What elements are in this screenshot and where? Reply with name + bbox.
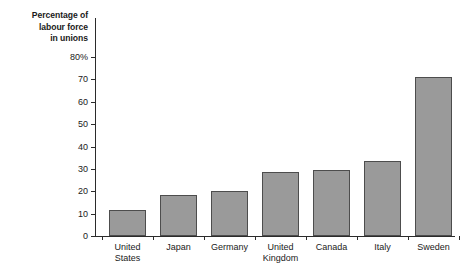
x-axis-label: Sweden (405, 242, 462, 253)
x-axis-tick (204, 236, 205, 240)
y-axis-tick-label: 80% (70, 53, 88, 62)
chart-title-line-1: Percentage of (14, 10, 88, 22)
x-axis-label: Germany (201, 242, 258, 253)
bar-chart: Percentage of labour force in unions 010… (0, 0, 471, 269)
y-axis-tick (91, 169, 95, 170)
y-axis-tick-label: 10 (78, 209, 88, 218)
bar (313, 170, 350, 236)
y-axis-tick (91, 79, 95, 80)
chart-title-line-3: in unions (14, 33, 88, 45)
chart-title-line-2: labour force (14, 22, 88, 34)
x-axis-label: Canada (303, 242, 360, 253)
x-axis-label-line: Canada (303, 242, 360, 253)
x-axis-tick (102, 236, 103, 240)
x-axis-label-line: States (99, 253, 156, 264)
bar (415, 77, 452, 236)
x-axis-tick (408, 236, 409, 240)
x-axis-label: UnitedKingdom (252, 242, 309, 263)
bar (364, 161, 401, 236)
x-axis-label: UnitedStates (99, 242, 156, 263)
y-axis-tick (91, 124, 95, 125)
x-axis-label-line: United (99, 242, 156, 253)
y-axis-tick (91, 236, 95, 237)
y-axis-tick (91, 147, 95, 148)
y-axis-tick-label: 70 (78, 75, 88, 84)
y-axis-tick-label: 20 (78, 187, 88, 196)
x-axis-label: Italy (354, 242, 411, 253)
y-axis-tick (91, 102, 95, 103)
x-axis-label-line: Italy (354, 242, 411, 253)
x-axis-tick (255, 236, 256, 240)
x-axis-label-line: Germany (201, 242, 258, 253)
x-axis-tick (459, 236, 460, 240)
bar (160, 195, 197, 236)
y-axis-tick-label: 40 (78, 142, 88, 151)
x-axis-tick (306, 236, 307, 240)
x-axis-label: Japan (150, 242, 207, 253)
y-axis-tick (91, 191, 95, 192)
y-axis-line (95, 18, 96, 236)
y-axis-tick-label: 50 (78, 120, 88, 129)
x-axis-label-line: Japan (150, 242, 207, 253)
x-axis-label-line: United (252, 242, 309, 253)
x-axis-line (95, 236, 455, 237)
y-axis-tick (91, 57, 95, 58)
x-axis-label-line: Kingdom (252, 253, 309, 264)
plot-area: 01020304050607080% UnitedStatesJapanGerm… (95, 18, 455, 236)
chart-title: Percentage of labour force in unions (14, 10, 88, 45)
y-axis-tick-label: 60 (78, 97, 88, 106)
x-axis-label-line: Sweden (405, 242, 462, 253)
x-axis-tick (153, 236, 154, 240)
x-axis-tick (357, 236, 358, 240)
y-axis-tick (91, 214, 95, 215)
bar (262, 172, 299, 236)
y-axis-tick-label: 30 (78, 164, 88, 173)
y-axis-tick-label: 0 (83, 232, 88, 241)
bar (109, 210, 146, 236)
bar (211, 191, 248, 236)
